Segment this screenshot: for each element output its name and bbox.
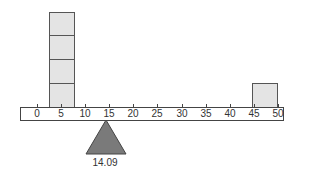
fulcrum-value-label: 14.09 (85, 157, 125, 168)
tick-label: 0 (27, 108, 47, 120)
tick-label: 25 (147, 108, 167, 120)
weight-box-stack-3 (49, 59, 75, 84)
fulcrum-triangle-icon (84, 119, 130, 157)
weight-box-stack-2 (49, 35, 75, 60)
tick-label: 30 (172, 108, 192, 120)
weight-box-right (252, 83, 278, 108)
tick-label: 45 (244, 108, 264, 120)
weight-box-stack-1 (49, 12, 75, 36)
tick-label: 5 (51, 108, 71, 120)
weight-box-stack-4 (49, 83, 75, 108)
tick-label: 50 (268, 108, 288, 120)
tick-label: 40 (220, 108, 240, 120)
tick-label: 35 (196, 108, 216, 120)
